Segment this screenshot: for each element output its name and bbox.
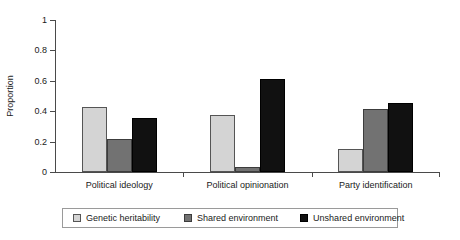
y-tick-label: 0.6: [34, 77, 47, 86]
chart-legend: Genetic heritabilityShared environmentUn…: [62, 208, 398, 228]
y-tick-label: 0: [42, 168, 47, 177]
legend-item: Unshared environment: [300, 214, 404, 223]
bar: [235, 167, 260, 172]
y-tick-mark: [50, 20, 55, 21]
y-tick-mark: [50, 142, 55, 143]
bar: [132, 118, 157, 172]
x-axis-category-label: Party identification: [339, 180, 413, 190]
x-tick-mark: [439, 172, 440, 177]
y-tick-label: 1: [42, 16, 47, 25]
bar: [210, 115, 235, 172]
x-tick-mark: [183, 172, 184, 177]
x-axis-line: [55, 172, 440, 173]
y-axis-title: Proportion: [5, 75, 15, 117]
legend-swatch-icon: [73, 214, 81, 222]
legend-label: Shared environment: [197, 214, 278, 223]
y-tick-mark: [50, 81, 55, 82]
legend-swatch-icon: [300, 214, 308, 222]
y-tick-mark: [50, 172, 55, 173]
bar: [260, 79, 285, 172]
bar: [388, 103, 413, 172]
legend-label: Genetic heritability: [86, 214, 160, 223]
bar-chart-figure: Proportion 00.20.40.60.81 Political ideo…: [0, 0, 460, 240]
bar: [107, 139, 132, 172]
y-tick-label: 0.2: [34, 138, 47, 147]
y-axis-line: [55, 20, 56, 172]
legend-label: Unshared environment: [313, 214, 404, 223]
bar: [82, 107, 107, 172]
y-tick-label: 0.4: [34, 107, 47, 116]
y-tick-mark: [50, 50, 55, 51]
bar: [338, 149, 363, 172]
legend-swatch-icon: [184, 214, 192, 222]
legend-item: Genetic heritability: [73, 214, 160, 223]
bar: [363, 109, 388, 172]
x-tick-mark: [312, 172, 313, 177]
legend-item: Shared environment: [184, 214, 278, 223]
y-tick-label: 0.8: [34, 46, 47, 55]
plot-area: 00.20.40.60.81: [55, 20, 440, 172]
x-axis-category-label: Political ideology: [86, 180, 153, 190]
y-tick-mark: [50, 111, 55, 112]
x-axis-category-label: Political opinionation: [206, 180, 288, 190]
